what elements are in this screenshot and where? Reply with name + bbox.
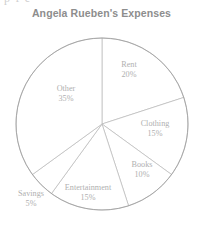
pie-label-rent: Rent20%: [121, 60, 137, 79]
pie-label-books: Books10%: [132, 160, 153, 179]
chart-page: p f e Angela Rueben's Expenses Rent20%Cl…: [0, 0, 203, 232]
pie-label-other: Other35%: [57, 84, 76, 103]
pie-chart-svg: Rent20%Clothing15%Books10%Entertainment1…: [0, 0, 203, 232]
pie-label-savings: Savings5%: [18, 189, 44, 208]
pie-chart: Rent20%Clothing15%Books10%Entertainment1…: [0, 0, 203, 232]
